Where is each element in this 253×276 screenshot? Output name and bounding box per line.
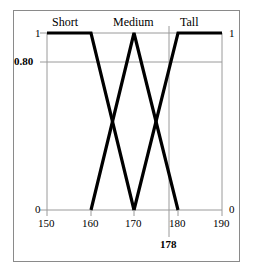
y-label-right-top: 1 — [229, 28, 235, 39]
vertical-marker-178-label: 178 — [160, 239, 177, 250]
curve-tall — [134, 33, 222, 210]
y-label-left-zero: 0 — [35, 204, 41, 215]
x-tick-label-160: 160 — [82, 218, 99, 229]
x-tick-label-170: 170 — [125, 218, 142, 229]
chart-plot-area — [0, 0, 253, 276]
x-tick-label-150: 150 — [38, 218, 55, 229]
series-label-short: Short — [52, 16, 78, 28]
y-label-left-top: 1 — [35, 28, 41, 39]
curve-medium — [91, 33, 178, 210]
fuzzy-membership-chart-screenshot: Short Medium Tall 1 0.80 0 1 0 150 160 1… — [0, 0, 253, 276]
curve-short — [47, 33, 134, 210]
series-label-medium: Medium — [113, 16, 154, 28]
x-tick-label-180: 180 — [169, 218, 186, 229]
y-label-right-zero: 0 — [229, 204, 235, 215]
series-label-tall: Tall — [180, 16, 199, 28]
x-tick-label-190: 190 — [213, 218, 230, 229]
y-label-left-0.80: 0.80 — [14, 56, 33, 67]
